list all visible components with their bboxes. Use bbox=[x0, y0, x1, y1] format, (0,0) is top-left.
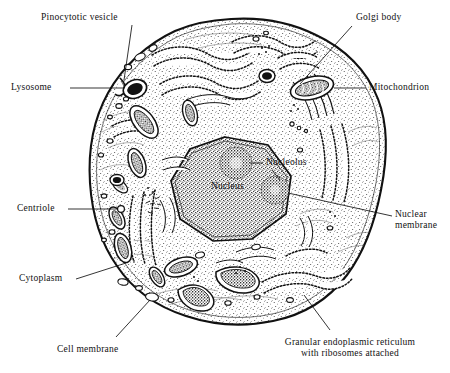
label-cell-membrane: Cell membrane bbox=[57, 344, 119, 355]
lysosome-2 bbox=[259, 70, 275, 83]
label-granular-er: Granular endoplasmic reticulum with ribo… bbox=[255, 337, 445, 359]
label-pinocytotic-vesicle: Pinocytotic vesicle bbox=[41, 12, 118, 23]
label-lysosome: Lysosome bbox=[11, 82, 52, 93]
label-nucleolus: Nucleolus bbox=[266, 157, 307, 168]
lysosome-3 bbox=[110, 175, 124, 186]
leader-cell-membrane bbox=[116, 300, 150, 337]
label-golgi-body: Golgi body bbox=[356, 12, 402, 23]
label-centriole: Centriole bbox=[17, 203, 55, 214]
label-nuclear-membrane: Nuclear membrane bbox=[395, 209, 437, 231]
cell-diagram-figure: Pinocytotic vesicle Golgi body Lysosome … bbox=[0, 0, 450, 373]
nucleolus-1 bbox=[220, 147, 252, 179]
label-cytoplasm: Cytoplasm bbox=[19, 273, 62, 284]
label-mitochondrion: Mitochondrion bbox=[369, 82, 429, 93]
label-nucleus: Nucleus bbox=[211, 181, 244, 192]
nucleolus-2 bbox=[261, 176, 289, 204]
leader-cytoplasm bbox=[76, 263, 126, 279]
